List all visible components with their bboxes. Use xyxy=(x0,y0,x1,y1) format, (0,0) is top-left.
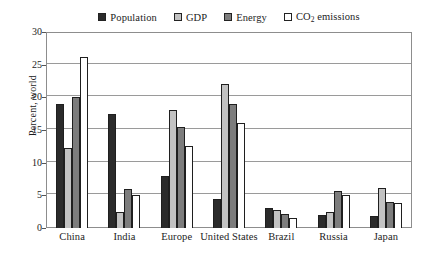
bar xyxy=(334,191,342,228)
bar xyxy=(64,148,72,228)
bar xyxy=(386,202,394,228)
legend-swatch-gdp xyxy=(174,13,182,21)
bar xyxy=(289,218,297,228)
legend-label-gdp: GDP xyxy=(186,12,207,23)
legend-label-co2-subscript: 2 xyxy=(311,15,315,24)
bar xyxy=(213,199,221,228)
y-axis-tick-label: 10 xyxy=(20,158,42,168)
legend-item-energy: Energy xyxy=(224,12,267,23)
bar-group xyxy=(318,32,350,228)
bar xyxy=(108,114,116,228)
bar xyxy=(124,189,132,228)
bar xyxy=(185,146,193,228)
bars-layer xyxy=(46,32,412,228)
x-axis-tick-label: Japan xyxy=(346,231,423,243)
legend-label-population: Population xyxy=(110,12,157,23)
bar-group xyxy=(370,32,402,228)
bar xyxy=(273,210,281,228)
bar xyxy=(221,84,229,228)
bar xyxy=(169,110,177,228)
bar xyxy=(72,97,80,228)
legend-label-energy: Energy xyxy=(236,12,267,23)
y-axis-tick-label: 15 xyxy=(20,125,42,135)
legend-swatch-energy xyxy=(224,13,232,21)
bar xyxy=(318,215,326,228)
bar xyxy=(265,208,273,228)
bar-group xyxy=(213,32,245,228)
bar xyxy=(132,195,140,228)
legend-label-co2-main: CO xyxy=(296,11,311,22)
legend-label-co2-tail: emissions xyxy=(315,11,360,22)
bar-group xyxy=(108,32,140,228)
bar xyxy=(326,212,334,228)
bar xyxy=(229,104,237,228)
chart-legend: Population GDP Energy CO2 emissions xyxy=(46,9,412,25)
legend-item-population: Population xyxy=(98,12,157,23)
y-axis-tick-label: 25 xyxy=(20,60,42,70)
legend-swatch-co2-emissions xyxy=(284,13,292,21)
bar xyxy=(177,127,185,228)
legend-item-co2-emissions: CO2 emissions xyxy=(284,11,360,23)
bar xyxy=(56,104,64,228)
bar xyxy=(161,176,169,228)
legend-label-co2-emissions: CO2 emissions xyxy=(296,11,360,23)
bar xyxy=(116,212,124,228)
legend-item-gdp: GDP xyxy=(174,12,207,23)
bar xyxy=(281,214,289,228)
bar-group xyxy=(56,32,88,228)
bar-chart: Population GDP Energy CO2 emissions Perc… xyxy=(0,0,423,261)
y-axis-tick-label: 20 xyxy=(20,92,42,102)
bar xyxy=(237,123,245,228)
y-axis-tick-mark xyxy=(42,228,46,229)
y-axis-tick-label: 5 xyxy=(20,190,42,200)
bar xyxy=(370,216,378,228)
y-axis-tick-label: 30 xyxy=(20,27,42,37)
bar-group xyxy=(265,32,297,228)
bar-group xyxy=(161,32,193,228)
bar xyxy=(80,57,88,228)
legend-swatch-population xyxy=(98,13,106,21)
bar xyxy=(342,195,350,228)
bar xyxy=(378,188,386,228)
bar xyxy=(394,203,402,228)
